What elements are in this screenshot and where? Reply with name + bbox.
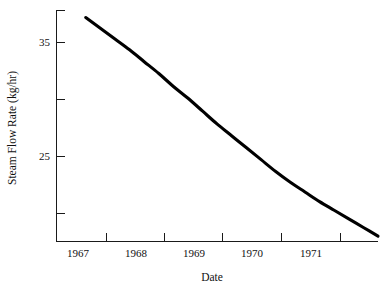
chart-plot-area: 35 25 1967 1968 1969 1970 1971 Date Stea… [0,0,390,289]
x-tick-label-1969: 1969 [183,247,206,259]
chart-figure: 35 25 1967 1968 1969 1970 1971 Date Stea… [0,0,390,289]
x-tick-label-1967: 1967 [67,247,90,259]
y-axis-title: Steam Flow Rate (kg/hr) [6,71,19,185]
x-tick-label-1971: 1971 [300,247,322,259]
y-tick-label-35: 35 [39,36,51,48]
x-axis-title: Date [201,271,223,283]
y-tick-label-25: 25 [39,150,51,162]
x-tick-label-1968: 1968 [125,247,148,259]
steam-flow-rate-curve [86,18,378,237]
x-tick-label-1970: 1970 [241,247,264,259]
